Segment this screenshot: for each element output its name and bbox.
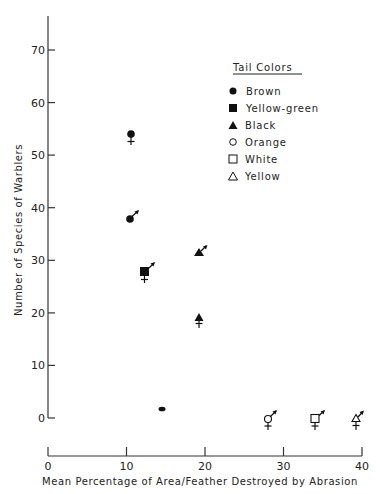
point-white-malefemale <box>311 410 325 430</box>
y-tick-label: 60 <box>31 97 45 110</box>
y-axis-title: Number of Species of Warblers <box>13 144 24 316</box>
y-tick-label: 20 <box>31 307 45 320</box>
legend-label: Yellow <box>244 171 281 182</box>
y-tick-label: 50 <box>31 149 45 162</box>
x-tick-label: 10 <box>120 460 134 473</box>
point-orange-malefemale <box>265 410 278 430</box>
filled-square-icon <box>229 104 237 112</box>
legend-title: Tail Colors <box>232 62 292 73</box>
legend: Tail Colors Brown Yellow-green Black Ora… <box>229 62 319 182</box>
point-black-female <box>195 313 204 328</box>
point-yellow-malefemale <box>352 411 364 431</box>
x-axis: 0 10 20 30 40 Mean Percentage of Area/Fe… <box>42 447 369 487</box>
legend-label: White <box>245 154 278 165</box>
point-yellowgreen-malefemale <box>140 262 155 283</box>
y-tick-label: 40 <box>31 202 45 215</box>
legend-label: Black <box>245 120 276 131</box>
open-triangle-icon <box>229 172 238 180</box>
legend-label: Yellow-green <box>245 103 319 114</box>
open-circle-icon <box>230 139 237 146</box>
scatter-chart: 0 10 20 30 40 50 60 70 Number of Species… <box>0 0 382 494</box>
point-brown-male <box>126 210 139 223</box>
x-tick-label: 20 <box>198 460 212 473</box>
x-axis-title: Mean Percentage of Area/Feather Destroye… <box>42 476 358 487</box>
y-tick-label: 70 <box>31 44 45 57</box>
x-tick-label: 0 <box>45 460 52 473</box>
x-tick-label: 40 <box>355 460 369 473</box>
y-tick-label: 0 <box>38 412 45 425</box>
filled-triangle-icon <box>229 121 238 129</box>
legend-label: Orange <box>245 137 287 148</box>
legend-label: Brown <box>246 86 281 97</box>
y-tick-label: 30 <box>31 254 45 267</box>
point-brown-small <box>159 407 166 412</box>
y-tick-label: 10 <box>31 359 45 372</box>
filled-circle-icon <box>230 88 237 95</box>
point-brown-female <box>127 130 135 145</box>
x-tick-label: 30 <box>277 460 291 473</box>
y-axis: 0 10 20 30 40 50 60 70 Number of Species… <box>13 16 55 425</box>
point-black-male <box>194 245 208 256</box>
open-square-icon <box>229 155 237 163</box>
